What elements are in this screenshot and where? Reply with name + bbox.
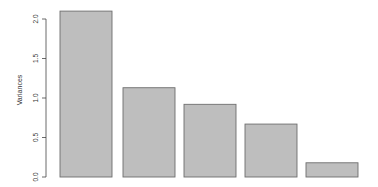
bar-pc2 — [123, 88, 175, 177]
bar-pc4 — [245, 124, 297, 177]
y-axis-label: Variances — [16, 75, 23, 106]
bar-pc3 — [184, 104, 236, 177]
y-tick-label: 0.0 — [32, 172, 39, 181]
chart-canvas: 0.00.51.01.52.0 — [0, 0, 378, 187]
y-tick-label: 0.5 — [32, 133, 39, 142]
y-tick-label: 2.0 — [32, 14, 39, 23]
y-tick-label: 1.0 — [32, 93, 39, 102]
bar-pc1 — [60, 11, 112, 177]
y-tick-label: 1.5 — [32, 54, 39, 63]
bar-pc5 — [306, 163, 358, 177]
